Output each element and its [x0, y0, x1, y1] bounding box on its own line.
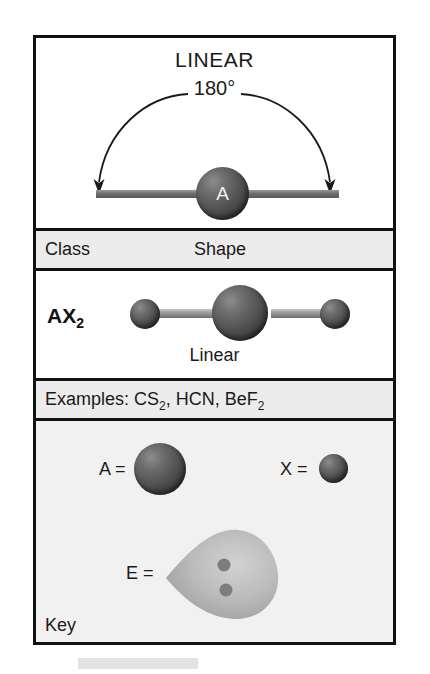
table-header-row: Class Shape — [36, 231, 393, 271]
ball-and-stick-model — [121, 285, 371, 341]
geometry-illustration-panel: LINEAR 180° A — [36, 38, 393, 231]
key-title: Key — [45, 615, 76, 636]
class-formula: AX2 — [47, 304, 84, 331]
vsepr-linear-card: LINEAR 180° A Class Shape AX2 — [33, 35, 396, 645]
class-formula-subscript: 2 — [76, 315, 84, 331]
large-sphere-icon — [134, 443, 186, 495]
examples-text: Examples: CS2, HCN, BeF2 — [45, 389, 264, 413]
small-sphere-icon — [319, 454, 348, 483]
column-header-shape: Shape — [194, 239, 246, 260]
central-atom-symbol: A — [196, 167, 249, 220]
bond-angle-label: 180° — [36, 77, 393, 100]
central-atom-sphere-icon — [212, 285, 268, 341]
examples-prefix: Examples: — [45, 389, 134, 409]
class-formula-base: AX — [47, 304, 76, 327]
example-formula-3: BeF2 — [225, 389, 265, 409]
table-row: AX2 Linear — [36, 271, 393, 381]
key-x-equals-label: X = — [280, 459, 308, 480]
geometry-title: LINEAR — [36, 48, 393, 72]
examples-row: Examples: CS2, HCN, BeF2 — [36, 381, 393, 421]
ligand-atom-sphere-left-icon — [130, 299, 160, 329]
key-e-equals-label: E = — [126, 563, 154, 584]
example-formula-1: CS2, — [134, 389, 176, 409]
key-panel: A = X = E = Key — [36, 421, 393, 642]
column-header-class: Class — [45, 239, 90, 260]
example-formula-2: HCN, — [176, 389, 225, 409]
shape-name-label: Linear — [36, 345, 393, 366]
scan-artifact — [78, 658, 198, 669]
key-a-equals-label: A = — [99, 459, 126, 480]
lone-pair-lobe-icon — [164, 524, 282, 622]
ligand-atom-sphere-right-icon — [320, 299, 350, 329]
